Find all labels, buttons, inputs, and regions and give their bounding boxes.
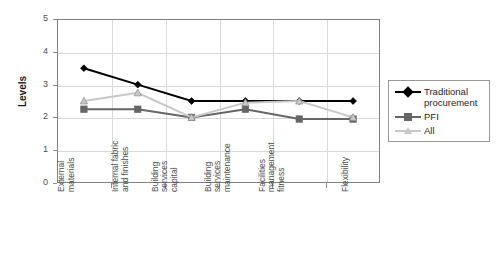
x-tick-label: Facilities management fitness xyxy=(258,142,287,192)
x-tick-label: Flexibility xyxy=(341,157,351,192)
legend-swatch-icon xyxy=(395,125,421,137)
y-tick-label: 3 xyxy=(22,80,48,89)
gridline xyxy=(327,20,328,182)
gridline xyxy=(166,20,167,182)
legend-label: Traditional procurement xyxy=(424,86,477,108)
y-tick-label: 0 xyxy=(22,178,48,187)
x-tick-label: Internal fabric and finishes xyxy=(111,141,130,193)
x-tick-label: External materials xyxy=(57,158,76,192)
gridline xyxy=(58,86,379,87)
line-chart: Levels 012345 External materialsInternal… xyxy=(0,0,496,274)
legend-label: PFI xyxy=(424,111,439,122)
legend-swatch-icon xyxy=(395,111,421,123)
x-tick-mark xyxy=(326,183,327,188)
legend-item[interactable]: PFI xyxy=(395,111,439,123)
gridline xyxy=(58,53,379,54)
legend: Traditional procurementPFIAll xyxy=(388,80,490,142)
y-tick-label: 5 xyxy=(22,14,48,23)
x-tick-label: Building services maintenance xyxy=(204,143,233,192)
legend-label: All xyxy=(424,125,435,136)
x-tick-label: Building services capital xyxy=(150,161,179,192)
legend-item[interactable]: All xyxy=(395,125,435,137)
y-tick-label: 2 xyxy=(22,112,48,121)
gridline xyxy=(58,118,379,119)
y-tick-label: 4 xyxy=(22,47,48,56)
legend-item[interactable]: Traditional procurement xyxy=(395,86,477,108)
legend-swatch-icon xyxy=(395,86,421,98)
y-tick-label: 1 xyxy=(22,145,48,154)
